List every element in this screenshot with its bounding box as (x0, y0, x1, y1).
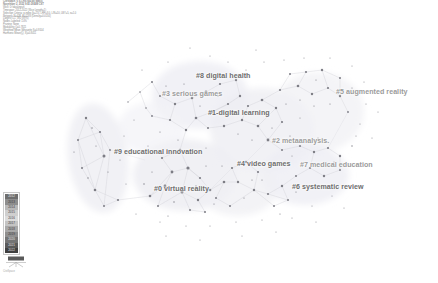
cluster-label-8[interactable]: #8 digital health (196, 72, 250, 80)
legend-year-label: 2014 (8, 206, 15, 209)
legend-entry: 2022 (5, 248, 18, 253)
citespace-metadata: CiteSpace, v. 6.1.R6 (64-bit) BasicNovem… (3, 1, 76, 36)
cluster-label-5[interactable]: #5 augmented reality (336, 88, 408, 96)
legend-year-label: 2020 (8, 238, 15, 241)
legend-year-label: 2013 (8, 201, 15, 204)
legend-year-label: 2021 (8, 244, 15, 247)
legend-year-label: 2015 (8, 211, 15, 214)
cluster-label-6[interactable]: #6 systematic review (292, 183, 364, 191)
year-color-legend[interactable]: 2012201320142015201620172018201920202021… (3, 192, 20, 255)
footer-caption: CiteSpace (3, 270, 15, 273)
cluster-label-2[interactable]: #2 metaanalysis. (272, 137, 329, 145)
cluster-label-7[interactable]: #7 medical education (300, 161, 373, 169)
legend-year-label: 2012 (8, 195, 15, 198)
cluster-label-4[interactable]: #4 video games (237, 160, 291, 168)
legend-year-label: 2017 (8, 222, 15, 225)
metadata-line: Harmonic Mean(Q, S)=0.8411 (3, 33, 76, 36)
cluster-label-1[interactable]: #1-digital learning (208, 109, 270, 117)
cluster-label-9[interactable]: #9 educational innovation (114, 148, 202, 156)
cluster-label-3[interactable]: #3 serious games (162, 90, 222, 98)
legend-year-label: 2018 (8, 228, 15, 231)
legend-year-label: 2016 (8, 217, 15, 220)
cluster-label-0[interactable]: #0 virtual reality (154, 185, 209, 193)
citespace-logo-icon (5, 256, 27, 270)
legend-year-label: 2022 (8, 249, 15, 252)
cluster-network-canvas (0, 0, 438, 283)
legend-year-label: 2019 (8, 233, 15, 236)
